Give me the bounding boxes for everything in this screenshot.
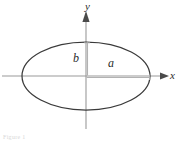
figure-caption: Figure 1 [3,134,26,140]
y-axis-label: y [85,1,90,12]
x-axis-arrowhead [160,72,169,79]
x-axis-label: x [170,70,175,81]
y-axis-arrowhead [82,11,89,22]
ellipse-figure: b a x y Figure 1 [0,0,184,145]
figure-canvas [0,0,184,145]
semi-minor-axis-label: b [73,52,79,64]
semi-major-axis-label: a [108,57,114,69]
